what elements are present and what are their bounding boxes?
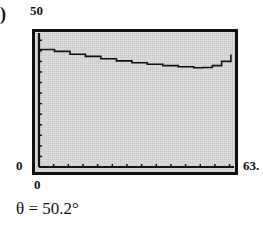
x-max-label: 63. [243, 158, 259, 174]
calculator-screen [32, 29, 238, 175]
x-min-label: 0 [34, 177, 41, 193]
part-label: ) [0, 4, 6, 25]
angle-caption: θ = 50.2° [16, 199, 79, 219]
y-min-label: 0 [16, 158, 23, 174]
y-max-label: 50 [30, 3, 43, 19]
